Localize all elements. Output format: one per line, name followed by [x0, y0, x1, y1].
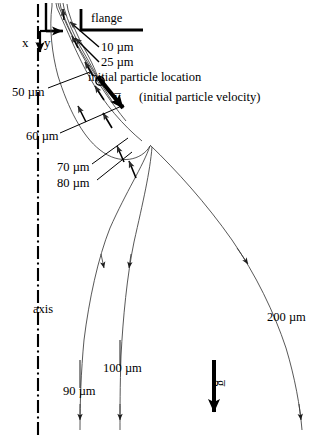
velocity-vector-symbol: v̅: [114, 90, 121, 104]
trajectory-curve-200um: [150, 145, 302, 430]
trajectory-label-80um: 80 µm: [57, 177, 90, 190]
y-axis-label: y: [44, 36, 51, 49]
particle-trajectory-figure: flange 10 µm 25 µm initial particle loca…: [0, 0, 327, 440]
x-axis-label: x: [22, 36, 29, 49]
axis-label: axis: [33, 303, 53, 316]
trajectory-drawing: [0, 0, 327, 440]
trajectory-label-25um: 25 µm: [101, 56, 134, 69]
gravity-vector-symbol: g̅: [213, 380, 228, 386]
trajectory-label-90um: 90 µm: [63, 385, 96, 398]
initial-particle-velocity-label: (initial particle velocity): [139, 91, 260, 104]
initial-particle-location-label: initial particle location: [88, 71, 201, 84]
trajectory-direction-arrows: [80, 248, 301, 420]
trajectory-label-60um: 60 µm: [26, 130, 59, 143]
trajectory-label-100um: 100 µm: [103, 362, 142, 375]
flange-label: flange: [91, 12, 122, 25]
trajectory-label-200um: 200 µm: [267, 311, 306, 324]
trajectory-label-10um: 10 µm: [101, 41, 134, 54]
trajectory-label-50um: 50 µm: [12, 86, 45, 99]
trajectory-label-70um: 70 µm: [57, 161, 90, 174]
trajectory-curve-100um: [120, 147, 152, 430]
